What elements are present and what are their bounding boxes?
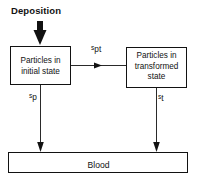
diagram-canvas: Deposition Particles in initial state Pa…: [0, 0, 200, 177]
box-blood-label: Blood: [9, 160, 188, 171]
box-transformed-state-line3: state: [127, 72, 186, 83]
rate-sp-subscript: p: [32, 92, 37, 102]
box-transformed-state-line2: transformed: [127, 62, 186, 73]
rate-label-st: st: [158, 93, 164, 103]
rate-label-sp: sp: [29, 92, 37, 102]
rate-label-spt: spt: [91, 44, 101, 54]
rate-st-subscript: t: [161, 93, 163, 103]
box-transformed-state-line1: Particles in: [127, 51, 186, 62]
deposition-label: Deposition: [11, 6, 61, 17]
box-initial-state-label: Particles in initial state: [11, 56, 70, 77]
box-initial-state-line1: Particles in: [11, 56, 70, 67]
rate-spt-subscript: pt: [94, 44, 101, 54]
box-initial-state-line2: initial state: [11, 67, 70, 78]
box-transformed-state-label: Particles in transformed state: [127, 51, 186, 83]
diagram-text-layer: Deposition Particles in initial state Pa…: [0, 0, 200, 177]
